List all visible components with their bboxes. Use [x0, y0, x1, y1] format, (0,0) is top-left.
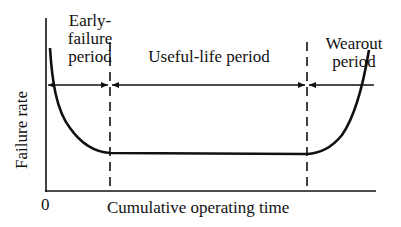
label-early-failure: Early- failure period — [60, 12, 120, 66]
label-wearout: Wearout period — [315, 35, 393, 71]
y-axis-label: Failure rate — [13, 85, 31, 175]
origin-label: 0 — [41, 196, 50, 214]
label-useful-life: Useful-life period — [116, 48, 302, 66]
x-axis-label: Cumulative operating time — [107, 199, 289, 217]
